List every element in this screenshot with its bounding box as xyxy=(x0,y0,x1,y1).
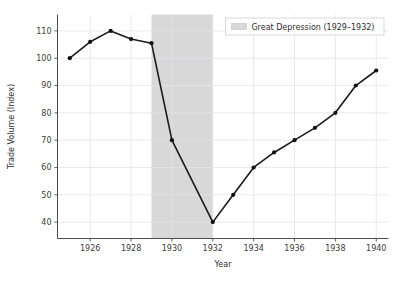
data-point xyxy=(68,56,72,60)
x-tick-label: 1940 xyxy=(366,244,386,253)
legend-label-great-depression: Great Depression (1929–1932) xyxy=(251,23,374,32)
data-point xyxy=(313,126,317,130)
chart-legend: Great Depression (1929–1932) xyxy=(225,18,384,35)
data-point xyxy=(88,40,92,44)
line-chart: 405060708090100110 192619281930193219341… xyxy=(0,0,397,285)
x-tick-label: 1932 xyxy=(203,244,223,253)
data-point xyxy=(354,83,358,87)
x-axis-title: Year xyxy=(214,260,233,269)
data-point xyxy=(149,41,153,45)
y-tick-label: 60 xyxy=(41,163,51,172)
x-tick-label: 1938 xyxy=(325,244,345,253)
x-tick-label: 1928 xyxy=(121,244,141,253)
chart-figure: 405060708090100110 192619281930193219341… xyxy=(0,0,397,285)
y-tick-label: 50 xyxy=(41,191,51,200)
x-tick-label: 1930 xyxy=(162,244,182,253)
y-tick-label: 90 xyxy=(41,81,51,90)
y-tick-label: 100 xyxy=(36,54,51,63)
data-point xyxy=(211,220,215,224)
x-tick-label: 1926 xyxy=(80,244,100,253)
data-point xyxy=(292,138,296,142)
data-point xyxy=(333,111,337,115)
x-tick-label: 1936 xyxy=(284,244,304,253)
y-tick-label: 70 xyxy=(41,136,51,145)
data-point xyxy=(231,193,235,197)
legend-swatch-great-depression xyxy=(231,24,246,30)
data-point xyxy=(129,37,133,41)
y-tick-label: 40 xyxy=(41,218,51,227)
data-point xyxy=(374,68,378,72)
data-point xyxy=(272,150,276,154)
data-point xyxy=(170,138,174,142)
data-point xyxy=(109,29,113,33)
y-axis-title: Trade Volume (Index) xyxy=(7,84,16,170)
y-tick-label: 80 xyxy=(41,109,51,118)
x-tick-label: 1934 xyxy=(243,244,263,253)
y-tick-label: 110 xyxy=(36,27,51,36)
data-point xyxy=(252,165,256,169)
